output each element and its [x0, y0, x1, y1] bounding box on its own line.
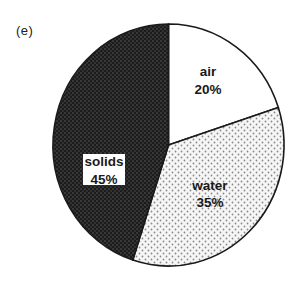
slice-label-solids: solids — [84, 154, 123, 169]
slice-percent-air: 20% — [194, 82, 221, 97]
slice-label-air: air — [200, 64, 217, 79]
slice-label-water: water — [191, 178, 228, 193]
slice-percent-solids: 45% — [90, 172, 117, 187]
slice-percent-water: 35% — [196, 195, 223, 210]
pie-chart: air20%water35%solids45% — [0, 0, 304, 290]
pie-slices — [53, 24, 284, 266]
